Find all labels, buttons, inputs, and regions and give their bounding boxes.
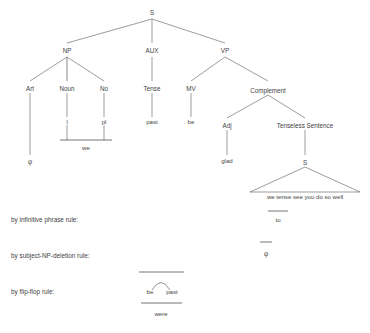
node-np: NP — [63, 47, 72, 54]
node-aux: AUX — [146, 47, 160, 54]
node-s-root: S — [150, 9, 154, 16]
node-i: I — [66, 118, 68, 125]
node-adj: Adj — [222, 122, 231, 130]
branch-complement-tenseless — [268, 95, 305, 118]
we-merge-group — [60, 125, 112, 140]
node-phi-art: φ — [28, 158, 32, 166]
branch-np-art — [30, 57, 67, 81]
node-noun: Noun — [59, 85, 75, 92]
branch-complement-adj — [227, 95, 268, 118]
flipflop-operand-past: past — [166, 288, 178, 295]
branches-level4-to-level5 — [30, 117, 305, 155]
branch-s-np — [67, 19, 152, 43]
node-s-embedded: S — [303, 159, 307, 166]
branches-np-to-level3 — [30, 57, 104, 81]
node-art: Art — [26, 85, 34, 92]
tree-canvas: S NP AUX VP Art Noun No Tense MV Complem… — [0, 0, 370, 333]
branches-s-to-level2 — [67, 19, 225, 43]
node-vp: VP — [221, 47, 229, 54]
node-mv: MV — [186, 85, 196, 92]
rule-label-flip-flop: by flip-flop rule: — [11, 288, 55, 296]
node-no: No — [100, 85, 109, 92]
rule-label-infinitive-phrase: by infinitive phrase rule: — [11, 216, 78, 224]
node-pl: pl — [102, 118, 107, 125]
branch-np-no — [67, 57, 104, 81]
flipflop-result-were: were — [153, 310, 168, 317]
embedded-sentence-triangle — [250, 167, 360, 192]
node-be: be — [188, 118, 195, 125]
node-we: we — [81, 144, 90, 151]
node-complement: Complement — [250, 87, 286, 95]
syntax-tree-diagram: S NP AUX VP Art Noun No Tense MV Complem… — [0, 0, 370, 333]
node-glad: glad — [221, 157, 233, 164]
branch-vp-complement — [225, 57, 268, 81]
node-tense: Tense — [144, 85, 161, 92]
rule-result-phi: φ — [264, 250, 268, 258]
rule-result-to: to — [275, 216, 281, 223]
branches-level3-to-level4 — [30, 93, 305, 118]
node-past: past — [146, 118, 158, 125]
branches-vp-to-level3 — [191, 57, 268, 81]
rule-label-subject-np-deletion: by subject-NP-deletion rule: — [11, 252, 90, 260]
embedded-sentence-string: we tense see you do so well — [266, 193, 343, 200]
triangle-outline — [250, 167, 360, 192]
flipflop-operand-be: be — [147, 288, 154, 295]
branch-vp-mv — [191, 57, 225, 81]
branch-s-vp — [152, 19, 225, 43]
node-tenseless-sentence: Tenseless Sentence — [277, 122, 334, 129]
